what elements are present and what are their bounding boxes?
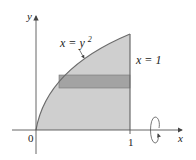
y-axis-label: y — [26, 10, 32, 22]
diagram-canvas: y x 0 1 x = y 2 x = 1 — [0, 0, 196, 160]
figure: y x 0 1 x = y 2 x = 1 — [0, 0, 196, 160]
origin-label: 0 — [28, 132, 34, 144]
line-label: x = 1 — [135, 53, 161, 67]
x-axis-label: x — [177, 132, 183, 144]
parabola-label-lhs: x = y — [59, 36, 85, 50]
parabola-label-exponent: 2 — [88, 35, 92, 44]
x-tick-label-1: 1 — [128, 136, 134, 148]
parabola-label: x = y 2 — [59, 35, 92, 50]
label-leader-line — [79, 49, 84, 58]
horizontal-strip — [59, 75, 130, 88]
